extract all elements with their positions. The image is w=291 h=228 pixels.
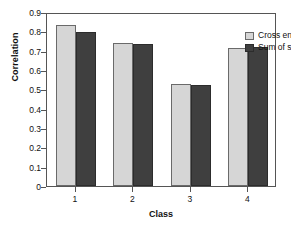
legend: Cross entropySum of squares: [243, 29, 291, 56]
bar: [248, 47, 268, 186]
y-axis-ticklabel: 0.2: [17, 144, 41, 153]
x-axis-tickmark: [247, 187, 248, 192]
bar: [76, 32, 96, 186]
x-axis-tickmark: [132, 187, 133, 192]
x-axis-ticklabel: 1: [60, 194, 90, 204]
y-axis-ticklabel: 0.9: [17, 9, 41, 18]
bar: [228, 48, 248, 186]
legend-item: Cross entropy: [245, 30, 291, 41]
y-axis-ticklabel: 0.3: [17, 125, 41, 134]
x-axis-tickmark: [75, 187, 76, 192]
y-axis-ticklabel: 0.5: [17, 86, 41, 95]
y-axis-ticklabel: 0.1: [17, 163, 41, 172]
bar: [56, 25, 76, 186]
x-axis-ticklabel: 4: [232, 194, 262, 204]
bar: [113, 43, 133, 186]
y-axis-ticklabel: 0: [17, 183, 41, 192]
legend-swatch-icon: [245, 44, 254, 52]
plot-area: Cross entropySum of squares: [46, 13, 276, 187]
x-axis-tickmark: [190, 187, 191, 192]
bar-chart: Correlation 00.10.20.30.40.50.60.70.80.9…: [0, 0, 291, 228]
legend-item-label: Sum of squares: [258, 43, 291, 52]
legend-item: Sum of squares: [245, 42, 291, 53]
y-axis-ticklabel: 0.6: [17, 67, 41, 76]
y-axis-ticklabel: 0.4: [17, 105, 41, 114]
legend-swatch-icon: [245, 32, 254, 40]
bar: [191, 85, 211, 186]
y-axis-ticklabel: 0.7: [17, 47, 41, 56]
x-axis-ticklabel: 3: [175, 194, 205, 204]
legend-item-label: Cross entropy: [258, 31, 291, 40]
bars-container: [47, 14, 275, 186]
y-axis-tickmark: [41, 187, 46, 188]
bar: [171, 84, 191, 186]
x-axis-title: Class: [46, 209, 276, 219]
y-axis-ticklabels: 00.10.20.30.40.50.60.70.80.9: [17, 0, 41, 228]
bar: [133, 44, 153, 186]
x-axis-ticklabel: 2: [117, 194, 147, 204]
y-axis-ticklabel: 0.8: [17, 28, 41, 37]
